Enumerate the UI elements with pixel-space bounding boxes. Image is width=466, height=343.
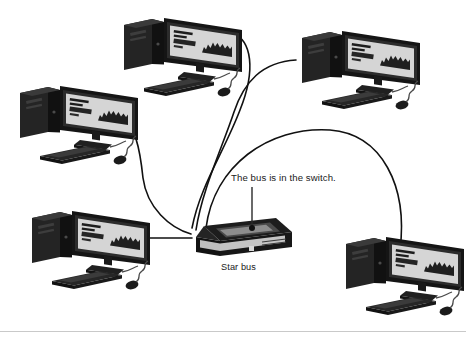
node-pc-mid-left[interactable] [20, 86, 138, 166]
node-pc-top-left[interactable] [124, 18, 242, 98]
network-switch[interactable] [196, 218, 292, 256]
node-pc-bottom-right[interactable] [346, 237, 464, 317]
switch-caption-label: Star bus [221, 262, 256, 272]
node-pc-bottom-left[interactable] [32, 211, 150, 291]
node-pc-top-right[interactable] [302, 31, 420, 111]
diagram-canvas: The bus is in the switch. Star bus [0, 0, 466, 343]
footer-divider [0, 331, 466, 332]
callout-label-switch: The bus is in the switch. [231, 172, 336, 183]
